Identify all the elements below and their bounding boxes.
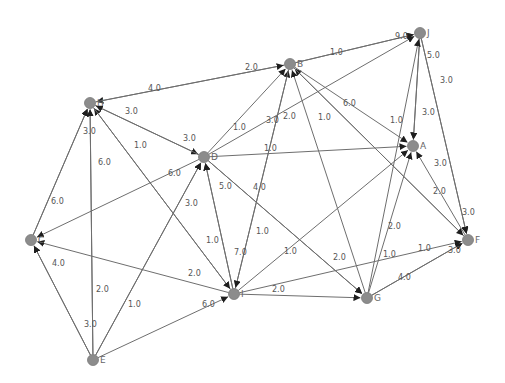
edge-weight-label: 1.0 [134, 141, 147, 150]
edge-weight-label: 3.0 [84, 320, 97, 329]
graph-canvas: 4.02.01.09.03.03.03.06.01.01.03.02.01.06… [0, 0, 505, 383]
edge-weight-label: 3.0 [266, 116, 279, 125]
edge-weight-label: 2.0 [333, 253, 346, 262]
edge-weight-label: 3.0 [125, 107, 138, 116]
node-A[interactable]: A [408, 141, 428, 152]
edge-weight-label: 4.0 [148, 84, 161, 93]
edge-weight-label: 1.0 [390, 116, 403, 125]
node-label: G [374, 293, 381, 303]
edge-weight-label: 4.0 [398, 273, 411, 282]
node-circle[interactable] [199, 152, 210, 163]
node-circle[interactable] [88, 355, 99, 366]
edge-weight-label: 1.0 [256, 227, 269, 236]
edge-layer [33, 35, 466, 358]
edge-weight-label: 2.0 [96, 285, 109, 294]
edge-weight-label: 3.0 [83, 127, 96, 136]
edge-weight-label: 1.0 [128, 300, 141, 309]
node-circle[interactable] [85, 98, 96, 109]
node-B[interactable]: B [285, 59, 304, 70]
edge-D-B[interactable] [208, 69, 286, 153]
edge-weight-label: 4.0 [253, 183, 266, 192]
edge-weight-label: 2.0 [388, 222, 401, 231]
edge-weight-label: 3.0 [185, 199, 198, 208]
node-circle[interactable] [229, 289, 240, 300]
edge-weight-label: 1.0 [206, 236, 219, 245]
edge-weight-label: 1.0 [233, 123, 246, 132]
edge-weight-label: 2.0 [283, 112, 296, 121]
edge-weight-label: 1.0 [418, 244, 431, 253]
edge-weight-label: 2.0 [272, 285, 285, 294]
edge-weight-label: 4.0 [52, 259, 65, 268]
edge-weight-label: 6.0 [202, 300, 215, 309]
node-H[interactable]: H [85, 98, 104, 109]
edge-D-G[interactable] [208, 161, 362, 294]
edge-weight-label: 9.0 [395, 32, 408, 41]
edge-weight-label: 2.0 [188, 269, 201, 278]
edge-weight-label: 6.0 [343, 99, 356, 108]
node-C[interactable]: C [26, 235, 45, 246]
edge-weight-label: 6.0 [51, 197, 64, 206]
node-label: B [297, 59, 303, 69]
node-circle[interactable] [285, 59, 296, 70]
edge-weight-label: 2.0 [433, 187, 446, 196]
edge-J-F[interactable] [421, 38, 466, 233]
edge-weight-label: 3.0 [448, 246, 461, 255]
edge-weight-label: 3.0 [462, 208, 475, 217]
edge-weight-label: 3.0 [434, 159, 447, 168]
node-label: E [100, 355, 106, 365]
node-label: I [241, 289, 244, 299]
edge-D-H[interactable] [96, 106, 199, 155]
node-circle[interactable] [362, 293, 373, 304]
node-J[interactable]: J [415, 28, 430, 39]
edge-D-J[interactable] [209, 36, 415, 154]
node-I[interactable]: I [229, 289, 244, 300]
node-D[interactable]: D [199, 152, 219, 163]
edge-weight-label: 6.0 [98, 158, 111, 167]
edge-weight-label: 7.0 [234, 248, 247, 257]
edge-weight-label: 1.0 [318, 113, 331, 122]
node-label: H [97, 98, 104, 108]
node-label: D [211, 152, 218, 162]
edge-weight-label: 2.0 [245, 63, 258, 72]
node-E[interactable]: E [88, 355, 107, 366]
edge-D-A[interactable] [209, 146, 406, 156]
node-label: J [426, 28, 430, 38]
edge-weight-label: 3.0 [440, 76, 453, 85]
edge-E-H[interactable] [90, 109, 93, 354]
edge-weight-label: 3.0 [422, 108, 435, 117]
edge-weight-label: 6.0 [168, 169, 181, 178]
edge-weight-label: 1.0 [264, 144, 277, 153]
edge-I-G[interactable] [239, 294, 360, 298]
node-circle[interactable] [415, 28, 426, 39]
edge-J-A[interactable] [413, 38, 419, 139]
node-label: F [475, 235, 480, 245]
edge-weight-label: 1.0 [330, 48, 343, 57]
edge-weight-label: 5.0 [427, 51, 440, 60]
edge-E-D[interactable] [96, 163, 201, 355]
edge-C-H[interactable] [33, 109, 87, 235]
edge-weight-label: 3.0 [183, 134, 196, 143]
node-layer: ABCDEFGHIJ [26, 28, 481, 366]
node-label: A [420, 141, 427, 151]
edge-weight-label: 5.0 [219, 182, 232, 191]
node-circle[interactable] [463, 235, 474, 246]
edge-weight-label: 1.0 [284, 247, 297, 256]
node-circle[interactable] [408, 141, 419, 152]
node-circle[interactable] [26, 235, 37, 246]
node-G[interactable]: G [362, 293, 382, 304]
edge-weight-label: 1.0 [383, 250, 396, 259]
node-F[interactable]: F [463, 235, 481, 246]
node-label: C [38, 235, 44, 245]
